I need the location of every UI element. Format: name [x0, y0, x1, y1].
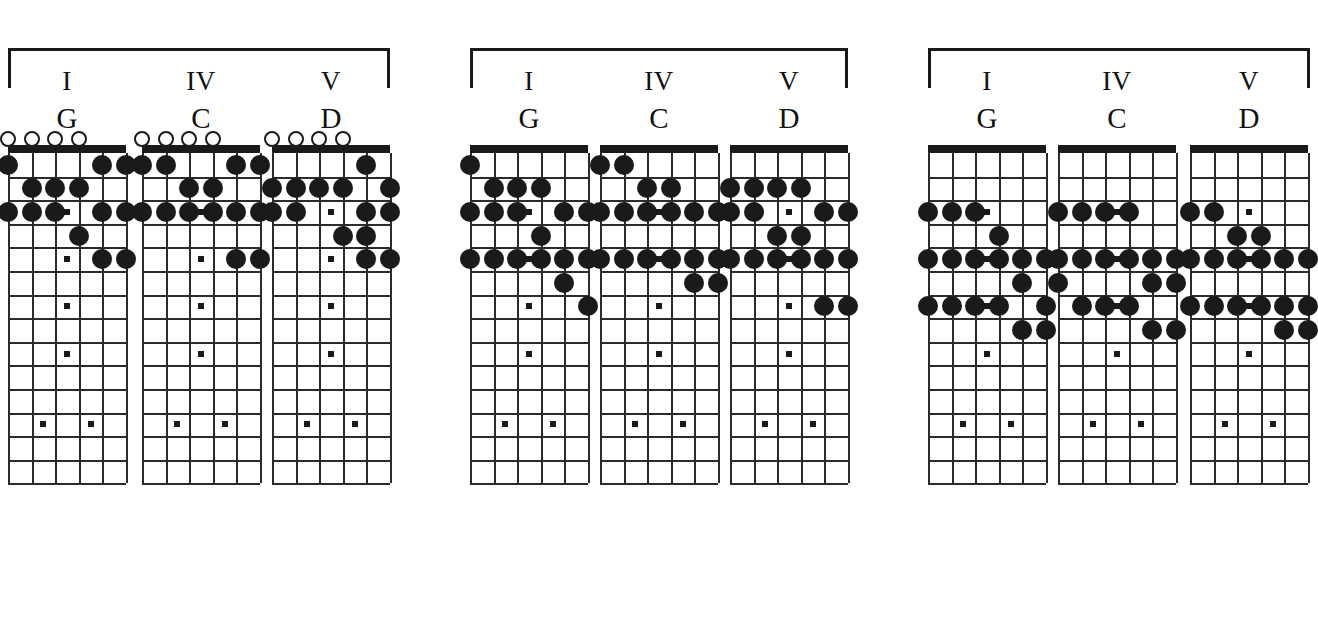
fret-line [928, 200, 1046, 202]
fretted-note-dot [356, 155, 376, 175]
fret-inlay-marker [762, 421, 768, 427]
chord-group-1: IGIVCVD [8, 0, 390, 520]
fret-line [272, 483, 390, 485]
fret-line [272, 389, 390, 391]
fretted-note-dot [1298, 296, 1318, 316]
fret-line [1058, 177, 1176, 179]
fretted-note-dot [1274, 249, 1294, 269]
fret-inlay-marker [328, 209, 334, 215]
fretted-note-dot [1274, 296, 1294, 316]
fretted-note-dot [309, 178, 329, 198]
fretted-note-dot [989, 249, 1009, 269]
fret-inlay-marker [786, 351, 792, 357]
fretted-note-dot [814, 249, 834, 269]
fret-line [730, 389, 848, 391]
fret-inlay-marker [1114, 351, 1120, 357]
fret-line [470, 460, 588, 462]
nut-bar [928, 145, 1046, 153]
fret-line [600, 271, 718, 273]
fretted-note-dot [684, 273, 704, 293]
fretted-note-dot [578, 296, 598, 316]
roman-numeral-I: I [8, 66, 126, 97]
fret-line [142, 318, 260, 320]
fretted-note-dot [767, 249, 787, 269]
label-column-G: IG [928, 66, 1046, 135]
string-line [1152, 153, 1154, 483]
fretted-note-dot [1036, 320, 1056, 340]
fret-inlay-marker [222, 421, 228, 427]
fret-line [142, 342, 260, 344]
fretted-note-dot [1119, 249, 1139, 269]
string-line [1284, 153, 1286, 483]
chord-group-2: IGIVCVD [470, 0, 848, 520]
fret-line [600, 460, 718, 462]
chart-g-open [8, 145, 126, 483]
fretted-note-dot [1048, 202, 1068, 222]
fretted-note-dot [531, 226, 551, 246]
fretted-note-dot [965, 202, 985, 222]
fretted-note-dot [507, 202, 527, 222]
fretted-note-dot [1012, 249, 1032, 269]
fretted-note-dot [814, 202, 834, 222]
fretted-note-dot [132, 202, 152, 222]
fretted-note-dot [203, 178, 223, 198]
fret-inlay-marker [328, 303, 334, 309]
fret-line [470, 318, 588, 320]
fret-line [1058, 224, 1176, 226]
fretted-note-dot [838, 202, 858, 222]
fretted-note-dot [1204, 249, 1224, 269]
fretted-note-dot [286, 178, 306, 198]
string-line [1308, 153, 1310, 483]
fret-line [272, 365, 390, 367]
nut-bar [1190, 145, 1308, 153]
label-column-C: IVC [1058, 66, 1176, 135]
fretted-note-dot [69, 178, 89, 198]
nut-bar [1058, 145, 1176, 153]
fret-inlay-marker [1246, 351, 1252, 357]
fretted-note-dot [720, 202, 740, 222]
fret-line [730, 342, 848, 344]
roman-numeral-V: V [272, 66, 390, 97]
fret-line [730, 483, 848, 485]
fret-line [600, 413, 718, 415]
fret-line [600, 318, 718, 320]
fretted-note-dot [1227, 226, 1247, 246]
fret-line [1058, 200, 1176, 202]
fret-line [8, 483, 126, 485]
fret-line [272, 200, 390, 202]
fretted-note-dot [720, 178, 740, 198]
fret-line [8, 389, 126, 391]
fretted-note-dot [45, 202, 65, 222]
fret-line [928, 318, 1046, 320]
string-line [343, 153, 345, 483]
fretted-note-dot [333, 226, 353, 246]
fretted-note-dot [684, 202, 704, 222]
fretted-note-dot [45, 178, 65, 198]
chord-labels: IGIVCVD [928, 66, 1310, 148]
fretted-note-dot [1119, 202, 1139, 222]
fretted-note-dot [614, 249, 634, 269]
fret-line [272, 318, 390, 320]
fret-line [1058, 271, 1176, 273]
fretted-note-dot [250, 155, 270, 175]
fretted-note-dot [1048, 273, 1068, 293]
fret-line [470, 342, 588, 344]
fret-line [8, 342, 126, 344]
fret-line [470, 436, 588, 438]
chart-g-position-3 [928, 145, 1046, 483]
fret-line [928, 247, 1046, 249]
fretted-note-dot [132, 155, 152, 175]
fretted-note-dot [92, 249, 112, 269]
string-line [319, 153, 321, 483]
fretted-note-dot [1142, 273, 1162, 293]
fret-line [928, 224, 1046, 226]
fretted-note-dot [1142, 320, 1162, 340]
fretted-note-dot [1298, 320, 1318, 340]
fret-line [730, 200, 848, 202]
fretted-note-dot [92, 202, 112, 222]
fret-line [1190, 365, 1308, 367]
fretted-note-dot [720, 249, 740, 269]
fret-line [730, 413, 848, 415]
chart-d-open [272, 145, 390, 483]
fret-line [272, 342, 390, 344]
